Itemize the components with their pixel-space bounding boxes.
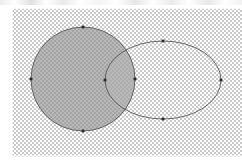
vector-editor-canvas (0, 0, 242, 167)
transparency-checkerboard[interactable] (12, 8, 242, 157)
scan-artifact-strip (0, 0, 242, 5)
